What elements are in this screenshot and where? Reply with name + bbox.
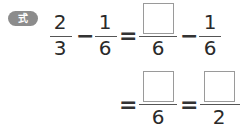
minus-sign-2: − xyxy=(180,26,198,46)
fraction2-numerator: 1 xyxy=(95,12,115,32)
fraction4-denominator: 6 xyxy=(200,38,220,58)
fraction5-denominator: 6 xyxy=(148,107,168,126)
fraction6-denominator: 2 xyxy=(209,107,229,126)
equals-sign-3: = xyxy=(180,95,198,115)
formula-badge: 式 xyxy=(8,11,38,26)
fraction2-denominator: 6 xyxy=(95,38,115,58)
answer-box-3[interactable] xyxy=(204,71,235,102)
equals-sign-1: = xyxy=(119,26,137,46)
answer-box-2[interactable] xyxy=(143,71,174,102)
equals-sign-2: = xyxy=(119,95,137,115)
fraction4-numerator: 1 xyxy=(200,12,220,32)
fraction1-denominator: 3 xyxy=(50,38,70,58)
answer-box-1[interactable] xyxy=(143,3,174,34)
minus-sign-1: − xyxy=(76,26,94,46)
fraction3-denominator: 6 xyxy=(148,38,168,58)
fraction1-numerator: 2 xyxy=(50,12,70,32)
